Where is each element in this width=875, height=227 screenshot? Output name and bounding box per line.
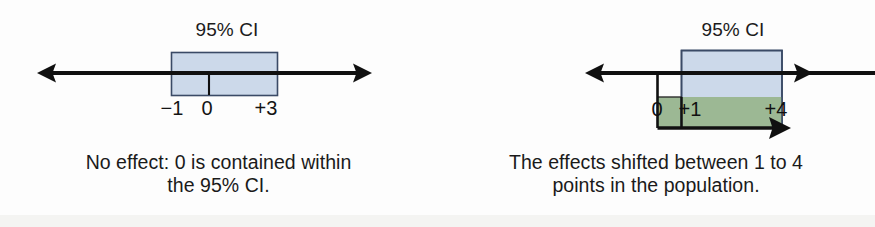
- ci-plot-left-svg: [0, 0, 437, 145]
- axis-tick-label-upper-left: +3: [244, 98, 288, 118]
- caption-line-2-right: points in the population.: [437, 174, 875, 197]
- axis-tick-label-zero-left: 0: [190, 98, 224, 118]
- ci-plot-right-svg: [437, 0, 875, 145]
- caption-line-1-left: No effect: 0 is contained within: [0, 151, 437, 174]
- axis-tick-label-upper-right: +4: [754, 99, 798, 119]
- axis-tick-label-lower-left: −1: [152, 98, 192, 118]
- caption-line-1-right: The effects shifted between 1 to 4: [437, 151, 875, 174]
- caption-line-2-left: the 95% CI.: [0, 174, 437, 197]
- panel-no-effect: 95% CI −1 0 +3 No effect: 0 is contained…: [0, 0, 437, 227]
- panel-shifted-effect: 95% CI: [437, 0, 875, 227]
- caption-no-effect: No effect: 0 is contained within the 95%…: [0, 151, 437, 197]
- ci-plot-no-effect: 95% CI −1 0 +3: [0, 0, 437, 145]
- caption-shifted-effect: The effects shifted between 1 to 4 point…: [437, 151, 875, 197]
- axis-tick-label-lower-right: +1: [669, 99, 711, 119]
- ci-plot-shifted-effect: 95% CI: [437, 0, 875, 145]
- figure-canvas: 95% CI −1 0 +3 No effect: 0 is contained…: [0, 0, 875, 227]
- axis-tick-label-zero-right: 0: [643, 99, 671, 119]
